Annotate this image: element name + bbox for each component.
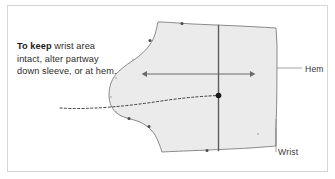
figure-root: To keep wrist area intact, alter partway… [0,0,335,179]
caption-text: To keep wrist area intact, alter partway… [17,40,119,78]
caption-lead: To keep [17,41,52,51]
label-wrist: Wrist [278,147,298,157]
alteration-point-dot [216,93,222,99]
sleeve-pattern-piece [109,22,277,152]
label-hem: Hem [305,64,324,74]
